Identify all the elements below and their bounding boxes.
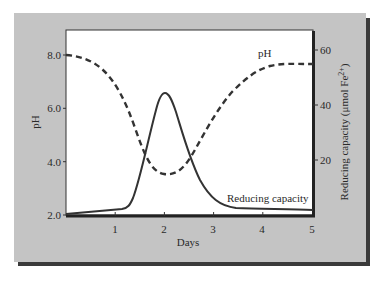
x-tick-1: 1 — [112, 223, 118, 235]
ph-curve-label: pH — [258, 47, 272, 59]
x-axis-title: Days — [177, 236, 200, 248]
x-tick-2: 2 — [161, 223, 167, 235]
y-tick-8: 8.0 — [47, 49, 61, 61]
y-right-tick-20: 20 — [320, 154, 332, 166]
x-tick-3: 3 — [210, 223, 216, 235]
left-y-tick-labels: 8.0 6.0 4.0 2.0 — [47, 49, 61, 221]
x-tick-5: 5 — [309, 223, 315, 235]
y-tick-6: 6.0 — [47, 102, 61, 114]
plot-area — [66, 30, 313, 215]
y-axis-title-right: Reducing capacity (μmol Fe2+) — [337, 63, 351, 200]
reducing-capacity-label: Reducing capacity — [227, 192, 309, 204]
x-tick-labels: 1 2 3 4 5 — [112, 223, 315, 235]
right-y-tick-labels: 60 40 20 — [320, 44, 332, 166]
y-tick-2: 2.0 — [47, 209, 61, 221]
x-tick-4: 4 — [259, 223, 265, 235]
y-right-tick-40: 40 — [320, 99, 332, 111]
y-tick-4: 4.0 — [47, 156, 61, 168]
y-axis-title-left: pH — [29, 115, 41, 129]
y-right-tick-60: 60 — [320, 44, 332, 56]
chart: 8.0 6.0 4.0 2.0 60 40 20 1 2 3 4 5 Days … — [0, 0, 383, 287]
